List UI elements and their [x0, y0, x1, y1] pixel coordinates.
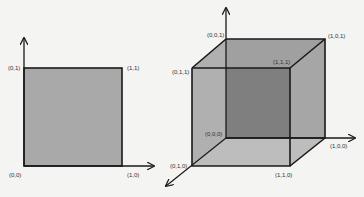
- label-1-1-1: (1,1,1): [273, 59, 290, 65]
- label-1-1: (1,1): [127, 65, 139, 71]
- label-0-1-1: (0,1,1): [172, 69, 189, 75]
- label-0-1-0: (0,1,0): [170, 163, 187, 169]
- label-1-0-0: (1,0,0): [330, 143, 347, 149]
- unit-square: [24, 68, 122, 166]
- label-0-0-1: (0,0,1): [207, 32, 224, 38]
- cube-front-window: [226, 68, 290, 138]
- label-1-0: (1,0): [127, 172, 139, 178]
- label-0-0-0: (0,0,0): [205, 131, 222, 137]
- label-1-0-1: (1,0,1): [328, 33, 345, 39]
- diagram-canvas: (0,1) (1,1) (0,0) (1,0) (0,0,1): [0, 0, 364, 197]
- unit-cube-figure: (0,0,1) (1,0,1) (0,1,1) (1,1,1) (0,0,0) …: [166, 8, 355, 186]
- label-0-0: (0,0): [9, 172, 21, 178]
- unit-square-figure: (0,1) (1,1) (0,0) (1,0): [8, 38, 154, 178]
- label-1-1-0: (1,1,0): [275, 172, 292, 178]
- label-0-1: (0,1): [8, 65, 20, 71]
